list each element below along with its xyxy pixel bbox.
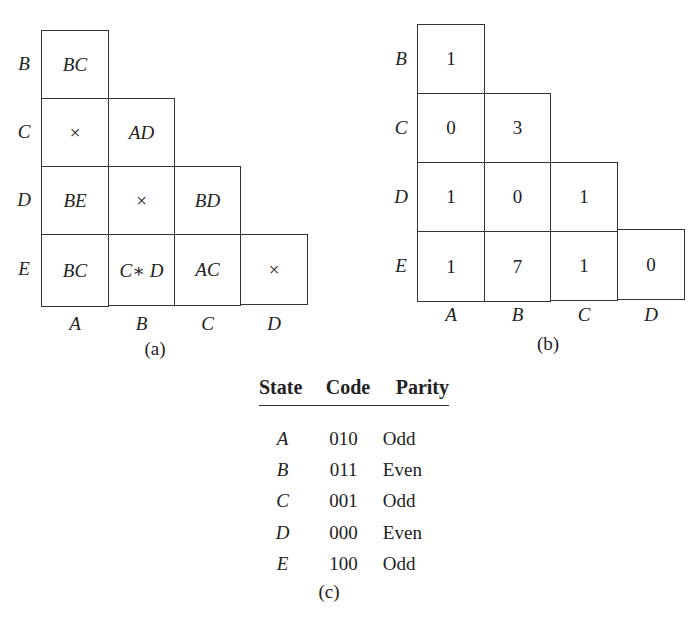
state-cell: B <box>259 459 314 481</box>
table-row: B 011 Even <box>259 454 449 485</box>
row-label: E <box>387 231 415 301</box>
table-row: C 001 Odd <box>259 486 449 517</box>
header-state: State <box>259 376 317 399</box>
column-label: B <box>484 300 551 330</box>
state-cell: C <box>259 490 314 512</box>
caption-a: (a) <box>125 338 185 360</box>
column-label: A <box>417 300 485 330</box>
chart-cell: 0 <box>417 93 485 163</box>
chart-cell: BC <box>41 30 109 99</box>
chart-cell: × <box>41 98 109 167</box>
parity-cell: Even <box>373 459 449 481</box>
parity-cell: Odd <box>373 428 449 450</box>
column-label: A <box>41 308 109 340</box>
parity-cell: Odd <box>373 490 449 512</box>
table-row: D 000 Even <box>259 517 449 548</box>
chart-cell: 1 <box>550 231 618 301</box>
row-label: C <box>10 98 38 166</box>
caption-b: (b) <box>518 333 578 355</box>
column-label: B <box>108 308 175 340</box>
header-code: Code <box>317 376 379 399</box>
row-label: C <box>387 93 415 162</box>
table-row: A 010 Odd <box>259 423 449 454</box>
chart-cell: 1 <box>550 162 618 232</box>
row-label: D <box>387 162 415 231</box>
chart-cell: 3 <box>484 93 551 163</box>
column-label: D <box>617 300 685 330</box>
chart-cell: C∗ D <box>108 234 175 306</box>
table-row: E 100 Odd <box>259 548 449 579</box>
row-label: D <box>10 166 38 234</box>
row-label: B <box>10 30 38 98</box>
chart-cell: 0 <box>617 229 685 300</box>
chart-cell: AD <box>108 98 175 167</box>
state-assignment-table: State Code Parity A 010 Odd B 011 Even C… <box>259 376 449 601</box>
table-header: State Code Parity <box>259 376 449 406</box>
state-cell: D <box>259 522 314 544</box>
code-cell: 000 <box>314 522 373 544</box>
chart-cell: BE <box>41 166 109 235</box>
parity-cell: Odd <box>373 553 449 575</box>
chart-cell: BC <box>41 234 109 307</box>
chart-cell: 1 <box>417 231 485 302</box>
code-cell: 001 <box>314 490 373 512</box>
chart-cell: × <box>240 234 308 305</box>
chart-cell: × <box>108 166 175 235</box>
chart-cell: 7 <box>484 231 551 302</box>
row-label: B <box>387 24 415 93</box>
code-cell: 010 <box>314 428 373 450</box>
row-label: E <box>10 234 38 304</box>
chart-cell: 0 <box>484 162 551 232</box>
parity-cell: Even <box>373 522 449 544</box>
caption-c: (c) <box>259 581 399 603</box>
header-parity: Parity <box>379 376 449 399</box>
chart-cell: AC <box>174 234 241 306</box>
state-cell: E <box>259 553 314 575</box>
column-label: D <box>240 308 308 340</box>
code-cell: 011 <box>314 459 373 481</box>
column-label: C <box>174 308 241 340</box>
chart-cell: 1 <box>417 24 485 94</box>
chart-cell: BD <box>174 166 241 235</box>
state-cell: A <box>259 428 314 450</box>
chart-cell: 1 <box>417 162 485 232</box>
code-cell: 100 <box>314 553 373 575</box>
column-label: C <box>550 300 618 330</box>
